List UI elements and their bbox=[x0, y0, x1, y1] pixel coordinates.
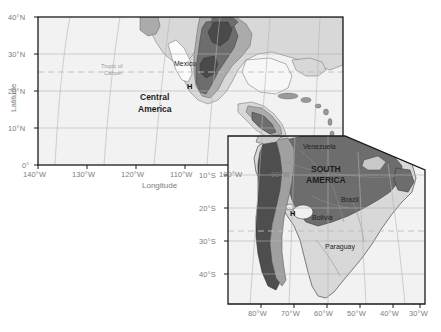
tropic-of-cancer-label-line1: Tropic of bbox=[101, 63, 123, 69]
label-bolivia: Bolivia bbox=[312, 214, 333, 221]
south-xtick-70w: 70°W bbox=[281, 309, 300, 318]
north-ytick-30n: 30°N bbox=[8, 50, 25, 59]
tropic-of-cancer-label-line2: Cancer bbox=[104, 70, 122, 76]
bolivia-light-patch bbox=[293, 205, 313, 219]
south-xtick-30w: 30°W bbox=[409, 309, 428, 318]
north-xtick-90w: 90°W bbox=[271, 170, 290, 179]
north-panel-map: Tropic of Cancer Mexico H Central Americ… bbox=[0, 0, 441, 332]
north-ytick-10n: 10°N bbox=[8, 124, 25, 133]
north-xtick-120w: 120°W bbox=[121, 170, 144, 179]
h-marker-south: H bbox=[290, 209, 295, 218]
label-venezuela: Venezuela bbox=[303, 143, 336, 150]
label-paraguay: Paraguay bbox=[325, 243, 355, 251]
south-xtick-80w: 80°W bbox=[248, 309, 267, 318]
south-xtick-40w: 40°W bbox=[380, 309, 399, 318]
south-xtick-50w: 50°W bbox=[347, 309, 366, 318]
label-mexico: Mexico bbox=[174, 60, 196, 67]
figure-root: Tropic of Cancer Mexico H Central Americ… bbox=[0, 0, 441, 332]
north-xtick-100w: 100°W bbox=[219, 170, 242, 179]
label-central-america-line2: America bbox=[138, 104, 172, 114]
north-ytick-40n: 40°N bbox=[8, 13, 25, 22]
south-ytick-30s: 30°S bbox=[199, 237, 216, 246]
north-xtick-130w: 130°W bbox=[72, 170, 95, 179]
north-xtick-140w: 140°W bbox=[23, 170, 46, 179]
longitude-axis-title: Longitude bbox=[142, 181, 177, 190]
south-ytick-10s: 10°S bbox=[199, 171, 216, 180]
north-ytick-0: 0° bbox=[22, 161, 29, 170]
label-brazil: Brazil bbox=[341, 196, 359, 203]
south-ytick-20s: 20°S bbox=[199, 204, 216, 213]
h-marker-north: H bbox=[187, 82, 192, 91]
label-south-america-line2: AMERICA bbox=[306, 175, 346, 185]
north-xtick-110w: 110°W bbox=[170, 170, 193, 179]
south-ytick-40s: 40°S bbox=[199, 270, 216, 279]
label-central-america-line1: Central bbox=[140, 92, 169, 102]
latitude-axis-title: Latitude bbox=[9, 84, 18, 112]
south-xtick-60w: 60°W bbox=[314, 309, 333, 318]
label-south-america-line1: SOUTH bbox=[311, 164, 341, 174]
